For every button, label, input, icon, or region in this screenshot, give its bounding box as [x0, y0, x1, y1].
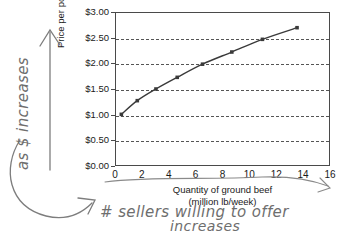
x-tick-label: 10 [238, 169, 260, 180]
data-point-marker [154, 87, 158, 91]
x-tick-label: 0 [104, 169, 126, 180]
x-tick-label: 6 [185, 169, 207, 180]
data-point-marker [175, 76, 179, 80]
y-tick-mark [111, 166, 115, 167]
data-point-marker [120, 113, 124, 117]
x-tick-label: 12 [265, 169, 287, 180]
annotation-left-note: as $ increases [14, 57, 32, 170]
supply-curve [116, 13, 329, 165]
x-tick-label: 4 [158, 169, 180, 180]
data-point-marker [295, 26, 299, 30]
data-point-marker [230, 50, 234, 54]
x-tick-label: 16 [319, 169, 341, 180]
plot-area [115, 12, 330, 166]
x-axis-title-main: Quantity of ground beef [115, 184, 330, 196]
chart-page: Price per pound Quantity of ground beef … [0, 0, 342, 236]
data-point-marker [136, 99, 140, 103]
up-arrow-icon [40, 30, 60, 170]
annotation-bottom-note-line2: increases [170, 218, 240, 234]
series-line [121, 28, 297, 115]
x-tick-label: 14 [292, 169, 314, 180]
y-tick-label: $2.50 [65, 33, 109, 43]
y-tick-label: $3.00 [65, 7, 109, 17]
y-tick-label: $1.00 [65, 110, 109, 120]
y-tick-label: $1.50 [65, 84, 109, 94]
y-tick-label: $2.00 [65, 58, 109, 68]
x-tick-label: 2 [131, 169, 153, 180]
y-tick-label: $0.50 [65, 135, 109, 145]
data-point-marker [261, 38, 265, 42]
data-point-marker [201, 62, 205, 66]
x-tick-label: 8 [212, 169, 234, 180]
y-tick-label: $0.00 [65, 161, 109, 171]
